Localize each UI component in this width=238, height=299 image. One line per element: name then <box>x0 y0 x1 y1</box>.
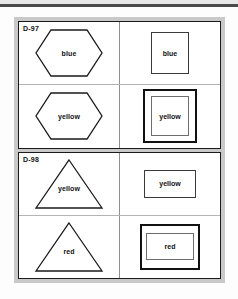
shape-label: yellow <box>58 113 80 120</box>
triangle-icon <box>33 157 105 211</box>
shape-label: red <box>63 248 74 255</box>
rectangle-double-border-inner: red <box>146 233 194 260</box>
hexagon-shape-wrap: yellow <box>33 90 105 142</box>
triangle-icon <box>33 220 105 274</box>
table-row: yellow yellow <box>19 153 220 215</box>
cell-box-square-yellow: yellow <box>119 85 220 147</box>
square-single-border: blue <box>151 32 189 74</box>
rectangle-double-border-outer: red <box>140 224 200 270</box>
table-row: blue blue <box>19 22 220 84</box>
top-horizontal-rule <box>0 4 238 7</box>
box-label: yellow <box>159 180 180 187</box>
shape-label: blue <box>62 50 77 57</box>
square-double-border-outer: yellow <box>143 89 197 143</box>
triangle-shape-wrap: red <box>33 220 105 274</box>
section-d98: D-98 yellow yellow <box>18 152 221 280</box>
cell-box-rectangle-yellow: yellow <box>119 153 220 215</box>
hexagon-shape-wrap: blue <box>33 27 105 79</box>
section-d97: D-97 blue blue <box>18 21 221 149</box>
section-label-d97: D-97 <box>23 25 39 32</box>
triangle-shape-wrap: yellow <box>33 157 105 211</box>
section-label-d98: D-98 <box>23 156 39 163</box>
table-row: red red <box>19 215 220 278</box>
rectangle-single-border: yellow <box>144 170 196 198</box>
cell-box-rectangle-red: red <box>119 216 220 278</box>
table-row: yellow yellow <box>19 84 220 147</box>
cell-shape-hexagon-yellow: yellow <box>19 85 119 147</box>
cell-shape-triangle-red: red <box>19 216 119 278</box>
box-label: yellow <box>159 113 180 120</box>
figure-outer-frame: D-97 blue blue <box>14 17 225 283</box>
shape-label: yellow <box>58 185 80 192</box>
cell-box-square-blue: blue <box>119 22 220 84</box>
box-label: red <box>165 243 176 250</box>
box-label: blue <box>163 50 177 57</box>
square-double-border-inner: yellow <box>151 96 189 136</box>
